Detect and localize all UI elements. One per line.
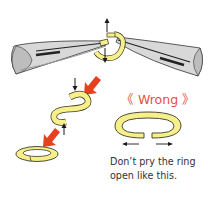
twisted-ring-icon [54,94,88,122]
left-right-arrows-icon [122,142,173,146]
right-pliers-icon [116,37,203,76]
closed-ring-icon [16,147,58,162]
wrong-example-label: 《 Wrong 》 [118,89,198,108]
red-arrow-icon [84,76,101,95]
caption-line-1: Don’t pry the ring [110,155,211,169]
wrong-example-caption: Don’t pry the ring open like this. [110,155,211,183]
pried-open-ring-icon [115,112,181,138]
caption-line-2: open like this. [110,169,211,183]
left-pliers-icon [11,41,106,74]
down-arrow-icon [73,78,78,91]
red-arrow-icon [43,128,60,147]
up-arrow-icon [105,18,110,32]
